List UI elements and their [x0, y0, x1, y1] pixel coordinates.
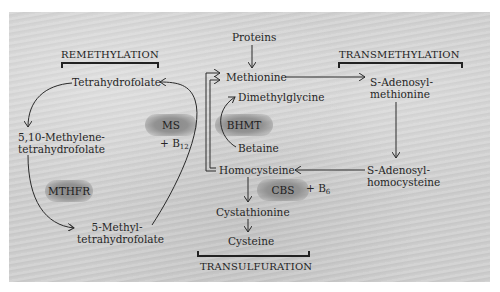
arrow-betaine-to-dimethylglycine — [221, 97, 236, 147]
pathway-arrows — [0, 0, 500, 292]
arrow-methyl-thf-to-thf — [152, 82, 197, 225]
arrow-thf-to-methylene-thf — [28, 83, 72, 127]
arrow-homocysteine-to-methionine-bhmt — [210, 80, 220, 168]
arrow-homocysteine-to-methionine-ms — [206, 73, 220, 171]
arrow-methylene-thf-to-methyl-thf — [28, 155, 74, 228]
